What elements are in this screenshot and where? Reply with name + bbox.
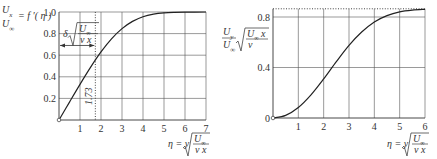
y-label-denominator: U∞ <box>2 18 14 33</box>
x-label: η = y <box>168 138 190 149</box>
right-chart: 1234560.40.80UyU∞U∞ xνη = yU∞ν x <box>222 9 429 156</box>
y-tick-label: 0.8 <box>258 12 271 23</box>
x-tick-label: 2 <box>321 121 326 132</box>
y-tick-label: 0.4 <box>258 62 271 73</box>
x-tick-label: 4 <box>372 121 377 132</box>
x-tick-label: 4 <box>141 123 146 134</box>
x-tick-label: 1 <box>78 123 83 134</box>
origin-marker <box>57 118 61 122</box>
left-chart: 12345670.20.40.60.81.01.73δU∞ν xUx= f ′(… <box>2 4 210 156</box>
x-tick-label: 5 <box>397 121 402 132</box>
y-tick-label: 0.8 <box>44 28 57 39</box>
x-tick-label: 1 <box>296 121 301 132</box>
x-tick-label: 2 <box>99 123 104 134</box>
x-tick-label: 3 <box>347 121 352 132</box>
radical-denominator: ν x <box>414 144 426 155</box>
x-tick-label: 6 <box>423 121 428 132</box>
y-label-equation: = f ′( η ) <box>18 10 52 22</box>
y-tick-zero: 0 <box>265 113 270 124</box>
x-tick-label: 5 <box>162 123 167 134</box>
figure: 12345670.20.40.60.81.01.73δU∞ν xUx= f ′(… <box>0 0 437 159</box>
y-tick-label: 0.6 <box>44 50 57 61</box>
radical-denominator: ν x <box>80 34 92 45</box>
y-tick-label: 0.4 <box>44 71 57 82</box>
y-tick-label: 0.2 <box>44 93 57 104</box>
x-tick-label: 3 <box>120 123 125 134</box>
y-label-denominator: U∞ <box>223 39 235 54</box>
x-tick-label: 6 <box>183 123 188 134</box>
boundary-thickness-value: 1.73 <box>83 87 94 105</box>
delta-symbol: δ <box>63 28 68 39</box>
radical-denominator: ν x <box>195 144 207 155</box>
x-label: η = y <box>387 138 409 149</box>
radical-denominator: ν <box>248 39 253 50</box>
x-tick-label: 7 <box>204 123 209 134</box>
y-label-numerator: Ux <box>2 4 13 19</box>
origin-marker <box>271 116 275 120</box>
arrowhead-left-icon <box>60 43 65 47</box>
